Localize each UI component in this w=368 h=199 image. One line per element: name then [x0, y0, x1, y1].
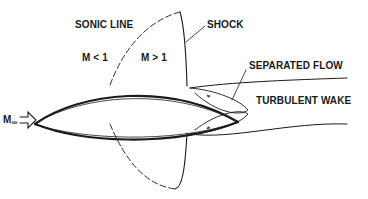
separated-flow-bubble — [190, 88, 248, 134]
separated-flow-label: SEPARATED FLOW — [249, 60, 343, 71]
freestream-mach-label: M∞ — [3, 114, 17, 127]
supersonic-label: M > 1 — [141, 52, 167, 63]
shock-label: SHOCK — [207, 19, 244, 30]
freestream-mach-subscript: ∞ — [11, 118, 17, 127]
shock-lower — [175, 133, 187, 189]
shock-leader — [186, 26, 205, 42]
sonic-line-lower — [110, 124, 175, 189]
subsonic-label: M < 1 — [82, 52, 108, 63]
shock-upper — [180, 12, 187, 86]
wake-upper — [190, 78, 347, 88]
turbulent-wake-label: TURBULENT WAKE — [256, 95, 351, 106]
sonic-line-label: SONIC LINE — [75, 19, 133, 30]
separated-flow-leader — [232, 70, 246, 100]
freestream-arrow-icon — [20, 112, 36, 128]
